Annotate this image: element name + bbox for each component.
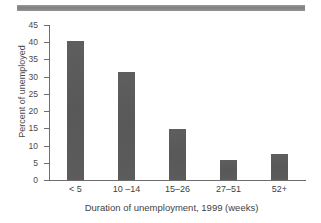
- y-axis-title: Percent of unemployed: [18, 22, 27, 162]
- x-axis-category-label: 52+: [250, 185, 310, 194]
- x-axis-line: [49, 180, 306, 181]
- y-axis-tick: [44, 94, 49, 95]
- top-rule-decoration: [17, 5, 305, 11]
- y-axis-tick: [44, 77, 49, 78]
- y-axis-tick: [44, 128, 49, 129]
- x-axis-title: Duration of unemployment, 1999 (weeks): [0, 203, 321, 213]
- y-axis-tick: [44, 25, 49, 26]
- bar: [169, 129, 186, 180]
- y-axis-tick: [44, 180, 49, 181]
- y-axis-tick: [44, 163, 49, 164]
- figure-container: 051015202530354045 Percent of unemployed…: [0, 0, 321, 223]
- y-axis-tick: [44, 146, 49, 147]
- bar: [67, 41, 84, 181]
- y-axis-tick: [44, 59, 49, 60]
- bar: [220, 160, 237, 180]
- plot-area: [50, 25, 305, 180]
- y-axis-tick-label: 0: [10, 176, 41, 185]
- y-axis-tick: [44, 42, 49, 43]
- y-axis-tick: [44, 111, 49, 112]
- y-axis-tick-label-text: 0: [10, 176, 38, 185]
- bar: [118, 72, 135, 180]
- bar: [271, 154, 288, 180]
